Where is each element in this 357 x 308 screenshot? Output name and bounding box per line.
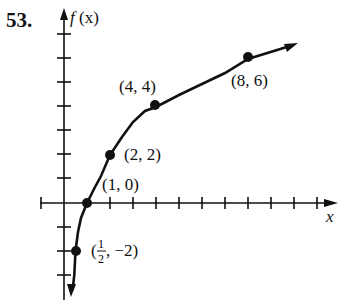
svg-text:, −2): , −2) [106, 241, 138, 260]
point-4-4 [150, 100, 160, 110]
point-1-0 [82, 198, 92, 208]
point-half-neg2 [71, 246, 81, 256]
label-8-6: (8, 6) [231, 71, 268, 90]
data-points [71, 52, 253, 256]
label-1-0: (1, 0) [102, 175, 139, 194]
graph: f (x) x (1, 0) (2, 2) (4, 4) (8, 6) ( 1 … [0, 0, 357, 308]
y-axis-label-f: f [70, 8, 77, 27]
label-2-2: (2, 2) [124, 145, 161, 164]
point-8-6 [243, 52, 253, 62]
curve-start-arrow-icon [67, 284, 76, 297]
svg-text:(: ( [91, 241, 97, 260]
y-axis-label-x: (x) [79, 8, 99, 27]
svg-text:2: 2 [98, 252, 104, 266]
label-4-4: (4, 4) [119, 77, 156, 96]
point-2-2 [105, 150, 115, 160]
svg-text:1: 1 [98, 237, 104, 251]
label-half-neg2: ( 1 2 , −2) [91, 237, 138, 266]
y-axis-arrow-icon [60, 8, 68, 20]
x-axis-label: x [325, 207, 334, 226]
x-axis-arrow-icon [324, 199, 338, 207]
curve-end-arrow-icon [284, 43, 298, 52]
